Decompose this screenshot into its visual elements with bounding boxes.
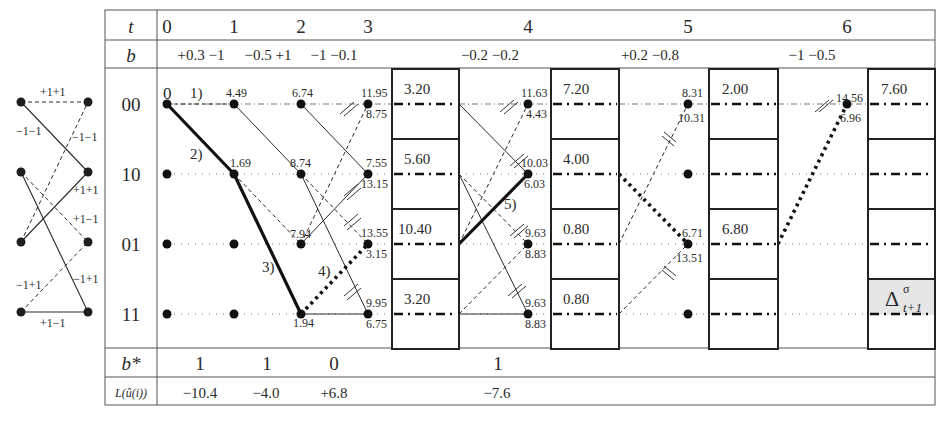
llr-value: +6.8	[320, 385, 347, 401]
metric: 1.94	[293, 316, 314, 330]
time-label: 6	[842, 16, 852, 37]
trellis-diagram-svg: +1+1 −1−1 −1−1 +1+1 +1−1 −1+1 −1+1 +1−1 …	[0, 0, 945, 424]
metric: 6.75	[366, 317, 387, 331]
b-star-values: 1 1 0 1	[195, 353, 503, 374]
step-marker: 4)	[318, 263, 331, 280]
legend-node	[84, 98, 93, 107]
delta-box-3	[709, 69, 778, 349]
delta-value: 3.20	[404, 291, 430, 307]
legend-label: +1+1	[40, 85, 66, 99]
legend-labels: +1+1 −1−1 −1−1 +1+1 +1−1 −1+1 −1+1 +1−1	[16, 85, 99, 330]
metric: 7.94	[290, 227, 311, 241]
metric: 13.51	[676, 251, 703, 265]
metric: 9.63	[525, 296, 546, 310]
legend-label: −1+1	[73, 272, 99, 286]
legend-label: +1−1	[73, 212, 99, 226]
legend-node	[84, 168, 93, 177]
llr-value: −4.0	[252, 385, 279, 401]
llr-value: −10.4	[183, 385, 218, 401]
state-label-10: 10	[122, 164, 141, 185]
delta-value: 5.60	[404, 151, 430, 167]
table-frame	[105, 10, 935, 405]
delta-value: 3.20	[404, 81, 430, 97]
delta-value: 0.80	[563, 221, 589, 237]
b-value: −1 −0.5	[789, 47, 836, 63]
metric: 13.15	[361, 177, 388, 191]
metric: 4.49	[226, 86, 247, 100]
legend-label: −1−1	[16, 124, 42, 138]
delta-values: 3.20 5.60 10.40 3.20 7.20 4.00 0.80 0.80…	[398, 81, 907, 307]
metric: 8.74	[290, 156, 311, 170]
row-headers: t b 00 10 01 11 b* L(û(i))	[114, 16, 147, 400]
time-label: 2	[296, 16, 306, 37]
legend-label: −1+1	[16, 278, 42, 292]
b-values: +0.3 −1 −0.5 +1 −1 −0.1 −0.2 −0.2 +0.2 −…	[178, 47, 836, 63]
metric: 4.43	[526, 107, 547, 121]
time-label: 5	[683, 16, 693, 37]
state-label-11: 11	[122, 304, 140, 325]
b-value: −0.5 +1	[245, 47, 292, 63]
metric: 9.95	[366, 296, 387, 310]
row-header-b-star: b*	[122, 353, 142, 374]
time-label: 0	[162, 16, 172, 37]
delta-box-2	[551, 69, 619, 349]
legend-node	[84, 308, 93, 317]
b-star-value: 1	[195, 353, 205, 374]
delta-box-1	[392, 69, 459, 349]
legend-node	[17, 238, 26, 247]
legend-node	[17, 308, 26, 317]
box-state-lines	[394, 104, 933, 314]
svg-text:σ: σ	[903, 282, 910, 296]
time-label: 1	[229, 16, 239, 37]
legend-label: +1−1	[40, 316, 66, 330]
llr-values: −10.4 −4.0 +6.8 −7.6	[183, 385, 511, 401]
metric: 13.55	[361, 226, 388, 240]
b-star-value: 0	[329, 353, 339, 374]
b-star-value: 1	[493, 353, 503, 374]
metric: 9.63	[525, 226, 546, 240]
metric: 8.75	[366, 107, 387, 121]
metric: 1.69	[230, 156, 251, 170]
b-star-value: 1	[262, 353, 272, 374]
legend-node	[84, 238, 93, 247]
b-value: +0.2 −0.8	[621, 47, 679, 63]
row-header-t: t	[128, 16, 134, 37]
state-label-01: 01	[122, 234, 141, 255]
metric: 7.55	[366, 156, 387, 170]
metric: 8.31	[682, 86, 703, 100]
highlight-cell	[869, 280, 934, 315]
metric: 10.03	[521, 156, 548, 170]
metric: 10.31	[678, 111, 705, 125]
metric: 6.03	[524, 177, 545, 191]
metric: 3.15	[366, 247, 387, 261]
viterbi-trellis-figure: +1+1 −1−1 −1−1 +1+1 +1−1 −1+1 −1+1 +1−1 …	[0, 0, 945, 424]
metric: 8.83	[525, 317, 546, 331]
metric: 6.96	[840, 111, 861, 125]
survivor-path	[167, 104, 528, 314]
delta-box-4	[868, 69, 935, 349]
b-value: −0.2 −0.2	[461, 47, 519, 63]
step-marker: 2)	[190, 146, 203, 163]
legend-label: +1+1	[73, 183, 99, 197]
step-marker: 1)	[190, 85, 203, 102]
b-value: −1 −0.1	[311, 47, 358, 63]
llr-value: −7.6	[483, 385, 511, 401]
delta-value: 7.60	[881, 81, 907, 97]
row-header-llr: L(û(i))	[114, 386, 147, 400]
b-value: +0.3 −1	[178, 47, 225, 63]
step-marker: 3)	[262, 259, 275, 276]
delta-value: 0.80	[563, 291, 589, 307]
delta-value: 6.80	[722, 221, 748, 237]
delta-value: 4.00	[563, 151, 589, 167]
time-label: 3	[363, 16, 373, 37]
legend-node	[17, 98, 26, 107]
metric: 8.83	[525, 247, 546, 261]
delta-value: 2.00	[722, 81, 748, 97]
legend-node	[17, 168, 26, 177]
time-labels: 0 1 2 3 4 5 6	[162, 16, 852, 37]
metric: 6.74	[292, 86, 313, 100]
metric: 11.63	[521, 86, 548, 100]
step-marker: 5)	[504, 196, 517, 213]
row-header-b: b	[126, 45, 136, 66]
svg-text:Δ: Δ	[885, 286, 899, 311]
